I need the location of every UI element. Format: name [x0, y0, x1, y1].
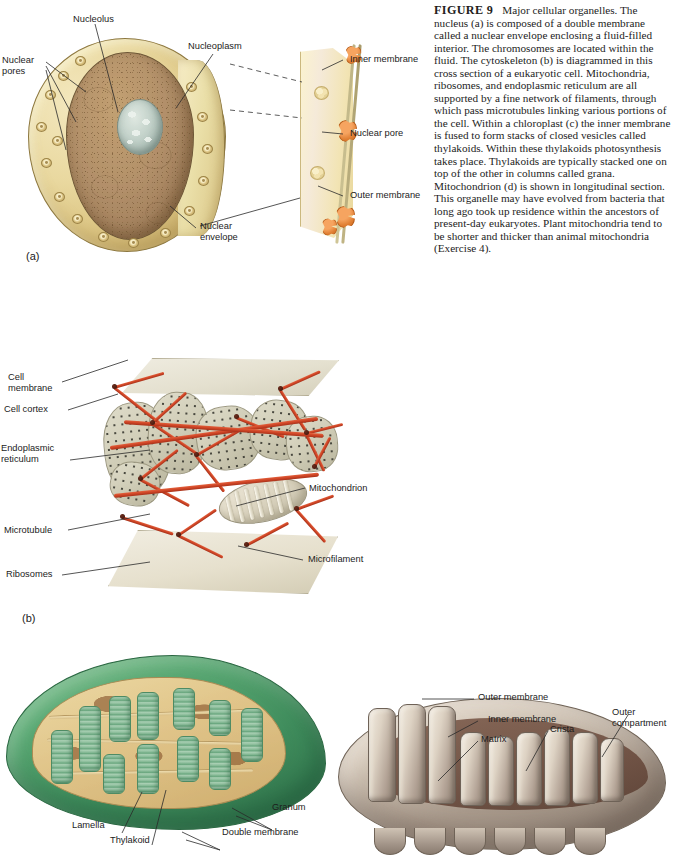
label-inner-membrane-mito: Inner membrane: [488, 714, 556, 725]
label-cell-cortex: Cell cortex: [4, 404, 48, 415]
label-matrix: Matrix: [481, 734, 506, 745]
label-crista: Crista: [550, 724, 574, 735]
label-microfilament: Microfilament: [308, 554, 363, 565]
label-nucleoplasm: Nucleoplasm: [188, 41, 242, 52]
label-microtubule: Microtubule: [4, 525, 52, 536]
label-nuclear-pores: Nuclear pores: [2, 55, 34, 78]
label-nuclear-envelope: Nuclear envelope: [200, 221, 238, 244]
label-lamella: Lamella: [72, 820, 105, 831]
label-double-membrane: Double membrane: [222, 827, 298, 838]
label-cell-membrane: Cell membrane: [8, 372, 52, 395]
figure-number: FIGURE 9: [434, 3, 493, 17]
label-outer-compartment: Outer compartment: [612, 707, 666, 730]
panel-letter-a: (a): [26, 250, 39, 262]
label-nucleolus: Nucleolus: [73, 14, 114, 25]
panel-c-leaders: [0, 640, 340, 855]
label-nuclear-pore: Nuclear pore: [350, 128, 403, 139]
figure-caption: FIGURE 9Major cellular organelles. The n…: [434, 4, 672, 255]
panel-letter-b: (b): [22, 612, 35, 624]
figure-page: FIGURE 9Major cellular organelles. The n…: [0, 0, 675, 855]
label-outer-membrane-mito: Outer membrane: [478, 692, 548, 703]
label-granum: Granum: [272, 802, 306, 813]
label-endoplasmic-reticulum: Endoplasmic reticulum: [1, 443, 54, 466]
label-thylakoid: Thylakoid: [110, 835, 150, 846]
panel-b-leaders: [0, 350, 470, 610]
label-ribosomes: Ribosomes: [6, 569, 53, 580]
label-outer-membrane-nucleus: Outer membrane: [350, 190, 420, 201]
label-mitochondrion-b: Mitochondrion: [309, 483, 367, 494]
label-inner-membrane: Inner membrane: [350, 54, 418, 65]
figure-caption-text: Major cellular organelles. The nucleus (…: [434, 4, 670, 254]
